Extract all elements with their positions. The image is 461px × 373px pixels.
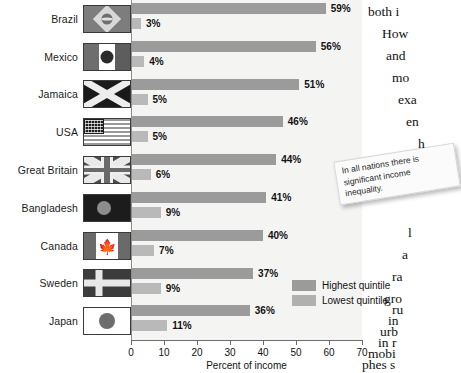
y-axis-line: [131, 0, 132, 341]
bar-value-label-lowest: 9%: [166, 207, 180, 218]
x-tick: [230, 340, 231, 345]
country-list: BrazilMexicoJamaicaUSAGreat BritainBangl…: [0, 0, 131, 340]
flag-icon-canada: 🍁: [83, 232, 131, 260]
country-label: Japan: [49, 315, 78, 327]
body-text-line: both i: [368, 4, 399, 20]
country-row: Japan: [0, 302, 131, 340]
x-tick-label: 10: [158, 347, 169, 358]
bar-highest-quintile: [131, 230, 263, 241]
x-tick-label: 40: [257, 347, 268, 358]
country-label: Brazil: [51, 13, 78, 25]
country-row: Mexico: [0, 38, 131, 76]
bar-lowest-quintile: [131, 283, 161, 294]
country-label: Jamaica: [38, 88, 78, 100]
flag-icon-japan: [83, 307, 131, 335]
x-tick: [329, 340, 330, 345]
bar-value-label-lowest: 4%: [149, 56, 163, 67]
bar-highest-quintile: [131, 3, 326, 14]
x-tick: [296, 340, 297, 345]
bar-lowest-quintile: [131, 207, 161, 218]
flag-icon-usa: [83, 118, 131, 146]
bar-value-label-lowest: 5%: [153, 94, 167, 105]
x-tick: [131, 340, 132, 345]
x-axis-title: Percent of income: [131, 360, 362, 371]
x-tick-label: 20: [191, 347, 202, 358]
x-axis-line: [131, 340, 362, 341]
legend-swatch-lowest: [292, 295, 316, 306]
bar-highest-quintile: [131, 305, 250, 316]
x-tick-label: 50: [290, 347, 301, 358]
country-row: Brazil: [0, 0, 131, 38]
x-tick: [197, 340, 198, 345]
bar-value-label-lowest: 5%: [153, 131, 167, 142]
bar-value-label-highest: 40%: [268, 230, 288, 241]
bar-value-label-highest: 37%: [258, 268, 278, 279]
flag-icon-great-britain: [83, 156, 131, 184]
bar-highest-quintile: [131, 41, 316, 52]
bar-lowest-quintile: [131, 18, 141, 29]
book-body-text: both iHowandmoexaenhlaragroruinurbin rmo…: [362, 0, 461, 373]
body-text-line: phes s: [362, 357, 395, 373]
country-label: Canada: [41, 240, 78, 252]
body-text-line: exa: [398, 92, 417, 108]
bar-value-label-lowest: 3%: [146, 18, 160, 29]
bar-highest-quintile: [131, 116, 283, 127]
bar-value-label-highest: 46%: [288, 116, 308, 127]
bar-highest-quintile: [131, 192, 266, 203]
bar-value-label-lowest: 6%: [156, 169, 170, 180]
bar-value-label-highest: 56%: [321, 41, 341, 52]
legend-swatch-highest: [292, 280, 316, 291]
country-label: USA: [56, 126, 78, 138]
flag-icon-mexico: [83, 43, 131, 71]
body-text-line: en: [406, 114, 419, 130]
country-label: Great Britain: [18, 164, 78, 176]
bar-value-label-highest: 41%: [271, 192, 291, 203]
bar-lowest-quintile: [131, 245, 154, 256]
flag-icon-bangladesh: [83, 194, 131, 222]
body-text-line: mo: [392, 70, 409, 86]
x-tick: [263, 340, 264, 345]
country-row: Jamaica: [0, 76, 131, 114]
country-label: Bangladesh: [22, 202, 78, 214]
body-text-line: l: [408, 225, 412, 241]
flag-icon-jamaica: [83, 80, 131, 108]
bar-lowest-quintile: [131, 169, 151, 180]
flag-icon-brazil: [83, 5, 131, 33]
bar-highest-quintile: [131, 79, 299, 90]
country-row: USA: [0, 113, 131, 151]
body-text-line: h: [418, 136, 425, 152]
bar-highest-quintile: [131, 268, 253, 279]
x-tick: [164, 340, 165, 345]
bar-value-label-highest: 44%: [281, 154, 301, 165]
country-row: Great Britain: [0, 151, 131, 189]
bar-value-label-lowest: 7%: [159, 245, 173, 256]
chart-page: BrazilMexicoJamaicaUSAGreat BritainBangl…: [0, 0, 461, 373]
bar-value-label-lowest: 11%: [172, 320, 191, 331]
country-row: Sweden: [0, 265, 131, 303]
body-text-line: ra: [392, 269, 403, 285]
body-text-line: a: [402, 247, 408, 263]
country-label: Mexico: [44, 51, 78, 63]
country-label: Sweden: [39, 277, 78, 289]
bar-value-label-lowest: 9%: [166, 283, 180, 294]
bar-lowest-quintile: [131, 94, 148, 105]
bar-value-label-highest: 36%: [255, 305, 275, 316]
bar-lowest-quintile: [131, 56, 144, 67]
x-tick-label: 0: [128, 347, 134, 358]
bar-value-label-highest: 51%: [304, 79, 324, 90]
body-text-line: How: [382, 26, 408, 42]
bar-lowest-quintile: [131, 320, 167, 331]
flag-icon-sweden: [83, 269, 131, 297]
bar-value-label-highest: 59%: [331, 3, 351, 14]
country-row: Bangladesh: [0, 189, 131, 227]
bar-highest-quintile: [131, 154, 276, 165]
x-tick-label: 30: [224, 347, 235, 358]
x-tick-label: 60: [323, 347, 334, 358]
country-row: Canada🍁: [0, 227, 131, 265]
body-text-line: and: [386, 48, 406, 64]
bar-lowest-quintile: [131, 131, 148, 142]
